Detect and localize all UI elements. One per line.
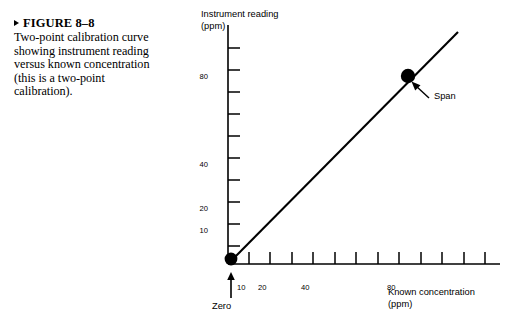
figure-caption-block: FIGURE 8–8 Two-point calibration curve s… [14,16,164,99]
span-arrow [412,82,430,99]
calibration-line [230,32,458,262]
figure-title-row: FIGURE 8–8 [14,16,164,30]
figure-caption-text: Two-point calibration curve showing inst… [14,31,164,99]
x-axis-ticks [249,252,485,264]
y-axis-ticks [228,48,240,246]
figure-number-label: FIGURE 8–8 [23,16,95,30]
span-data-point [401,69,415,83]
zero-arrow [227,272,235,298]
calibration-chart: Instrument reading (ppm) Known concentra… [170,0,507,330]
chart-plot-svg [170,0,507,330]
triangle-right-icon [14,20,19,26]
zero-data-point [225,253,238,266]
